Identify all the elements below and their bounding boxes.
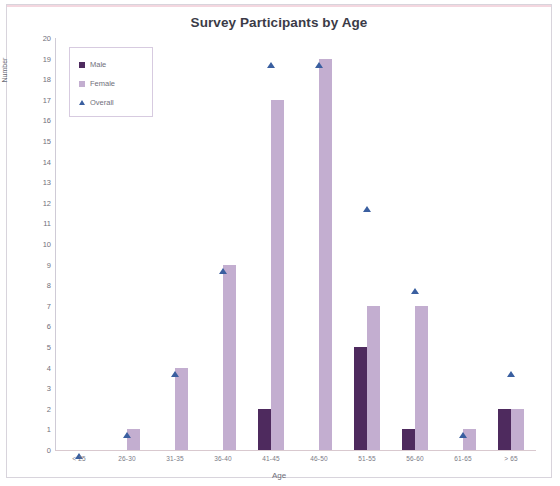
marker-overall — [267, 62, 275, 68]
bar-female — [415, 306, 428, 450]
y-axis-tick: 15 — [25, 137, 51, 146]
y-axis-tick: 9 — [25, 260, 51, 269]
legend-item-overall[interactable]: Overall — [79, 93, 152, 112]
y-axis-tick: 17 — [25, 95, 51, 104]
y-axis-tick-labels: 20191817161514131211109876543210 — [21, 5, 51, 486]
marker-overall — [171, 371, 179, 377]
y-axis-tick: 19 — [25, 54, 51, 63]
bar-female — [223, 265, 236, 450]
y-axis-tick: 11 — [25, 219, 51, 228]
y-axis-tick: 13 — [25, 178, 51, 187]
x-axis-tick: 31-35 — [166, 455, 184, 462]
y-axis-tick: 14 — [25, 157, 51, 166]
y-axis-tick: 16 — [25, 116, 51, 125]
bar-female — [511, 409, 524, 450]
marker-overall — [363, 206, 371, 212]
x-axis-tick: 36-40 — [214, 455, 232, 462]
marker-overall — [411, 288, 419, 294]
x-axis-tick: 51-55 — [358, 455, 376, 462]
y-axis-tick: 5 — [25, 343, 51, 352]
y-axis-tick: 3 — [25, 384, 51, 393]
chart-container: Survey Participants by Age Number Age 20… — [6, 4, 552, 478]
y-axis-tick: 2 — [25, 404, 51, 413]
y-axis-tick: 8 — [25, 281, 51, 290]
y-axis-tick: 12 — [25, 198, 51, 207]
marker-overall — [123, 432, 131, 438]
y-axis-tick: 1 — [25, 425, 51, 434]
bar-male — [258, 409, 271, 450]
y-axis-tick: 20 — [25, 34, 51, 43]
y-axis-tick: 10 — [25, 240, 51, 249]
x-axis-tick: 61-65 — [454, 455, 472, 462]
x-axis-tick: 46-50 — [310, 455, 328, 462]
legend-item-label: Overall — [90, 98, 114, 107]
y-axis-tick: 6 — [25, 322, 51, 331]
square-swatch-icon — [79, 81, 85, 87]
bar-female — [175, 368, 188, 450]
marker-overall — [219, 268, 227, 274]
x-axis-tick: < 25 — [72, 455, 86, 462]
bar-male — [402, 429, 415, 450]
x-axis-tick: 41-45 — [262, 455, 280, 462]
x-axis-tick: 56-60 — [406, 455, 424, 462]
legend-item-male[interactable]: Male — [79, 55, 152, 74]
chart-title: Survey Participants by Age — [7, 15, 551, 30]
marker-overall — [507, 371, 515, 377]
chart-legend: MaleFemaleOverall — [69, 47, 153, 117]
y-axis-tick: 7 — [25, 301, 51, 310]
x-axis-line — [55, 450, 536, 451]
legend-item-label: Male — [90, 60, 106, 69]
y-axis-tick: 4 — [25, 363, 51, 372]
bar-female — [271, 100, 284, 450]
bar-male — [354, 347, 367, 450]
bar-female — [367, 306, 380, 450]
bar-male — [498, 409, 511, 450]
square-swatch-icon — [79, 62, 85, 68]
marker-overall — [459, 432, 467, 438]
y-axis-title: Number — [1, 35, 8, 105]
triangle-marker-icon — [79, 100, 85, 105]
y-axis-tick: 0 — [25, 446, 51, 455]
x-axis-tick: > 65 — [504, 455, 518, 462]
bar-female — [319, 59, 332, 450]
legend-item-female[interactable]: Female — [79, 74, 152, 93]
marker-overall — [315, 62, 323, 68]
x-axis-title: Age — [7, 471, 551, 480]
y-axis-tick: 18 — [25, 75, 51, 84]
legend-item-label: Female — [90, 79, 115, 88]
x-axis-tick: 26-30 — [118, 455, 136, 462]
